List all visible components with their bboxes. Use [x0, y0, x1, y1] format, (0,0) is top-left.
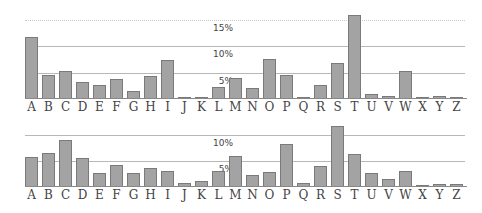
bar-e [93, 85, 106, 99]
x-label-j: J [176, 188, 193, 202]
bar-u [365, 173, 378, 187]
bar-l [212, 171, 225, 187]
x-label-z: Z [448, 188, 465, 202]
x-label-n: N [244, 188, 261, 202]
x-label-u: U [363, 188, 380, 202]
x-label-w: W [397, 188, 414, 202]
x-label-a: A [23, 188, 40, 202]
x-label-f: F [108, 188, 125, 202]
top-plot-area: 15%10%5% [25, 0, 467, 99]
bar-s [331, 63, 344, 99]
bar-f [110, 79, 123, 99]
x-label-l: L [210, 188, 227, 202]
bar-h [144, 76, 157, 99]
gridline [25, 135, 465, 136]
bar-m [229, 156, 242, 187]
bar-b [42, 75, 55, 99]
bar-c [59, 140, 72, 187]
y-tick-label: 15% [193, 23, 233, 33]
x-label-m: M [227, 188, 244, 202]
x-label-c: C [57, 188, 74, 202]
x-label-d: D [74, 188, 91, 202]
top-letter-frequency-chart: 15%10%5% ABCDEFGHIJKLMNOPQRSTUVWXYZ [0, 0, 482, 110]
bar-c [59, 71, 72, 99]
bar-w [399, 71, 412, 99]
bar-e [93, 173, 106, 187]
x-label-r: R [312, 188, 329, 202]
x-axis-baseline [25, 186, 467, 187]
bar-g [127, 173, 140, 187]
gridline [25, 20, 465, 21]
gridline [25, 46, 465, 47]
x-label-i: I [159, 188, 176, 202]
bar-m [229, 78, 242, 99]
bar-a [25, 37, 38, 99]
bar-w [399, 171, 412, 187]
x-label-h: H [142, 188, 159, 202]
bar-t [348, 154, 361, 187]
bar-o [263, 59, 276, 99]
x-label-b: B [40, 188, 57, 202]
bar-d [76, 82, 89, 99]
bar-r [314, 85, 327, 99]
x-label-y: Y [431, 188, 448, 202]
gridline [25, 161, 465, 162]
bar-t [348, 15, 361, 99]
x-axis-baseline [25, 98, 467, 99]
bar-i [161, 60, 174, 99]
x-label-g: G [125, 188, 142, 202]
x-label-o: O [261, 188, 278, 202]
y-tick-label: 10% [193, 138, 233, 148]
bar-p [280, 144, 293, 187]
x-label-q: Q [295, 188, 312, 202]
bar-p [280, 75, 293, 99]
bottom-letter-frequency-chart: 10%5% ABCDEFGHIJKLMNOPQRSTUVWXYZ [0, 110, 482, 213]
x-label-v: V [380, 188, 397, 202]
bar-d [76, 158, 89, 187]
bar-h [144, 168, 157, 187]
bar-r [314, 166, 327, 187]
x-label-e: E [91, 188, 108, 202]
bar-f [110, 165, 123, 187]
x-label-x: X [414, 188, 431, 202]
bar-s [331, 126, 344, 187]
bottom-plot-area: 10%5% [25, 110, 467, 187]
y-tick-label: 5% [193, 76, 233, 86]
y-tick-label: 10% [193, 49, 233, 59]
bar-a [25, 157, 38, 187]
x-label-s: S [329, 188, 346, 202]
bar-i [161, 171, 174, 187]
bar-b [42, 153, 55, 187]
x-label-p: P [278, 188, 295, 202]
x-label-k: K [193, 188, 210, 202]
bar-o [263, 172, 276, 187]
x-label-t: T [346, 188, 363, 202]
